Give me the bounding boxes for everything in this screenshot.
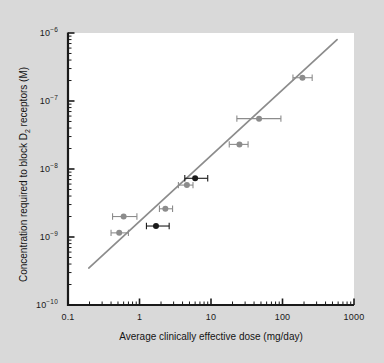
y-tick-label: 10−9 bbox=[0, 232, 58, 242]
x-axis-title: Average clinically effective dose (mg/da… bbox=[68, 331, 354, 342]
x-tick-label: 0.1 bbox=[61, 312, 74, 322]
x-tick-label: 10 bbox=[206, 312, 216, 322]
y-axis-title-main: Concentration required to block D bbox=[18, 133, 29, 282]
y-tick-label: 10−8 bbox=[0, 164, 58, 174]
x-tick-label: 100 bbox=[275, 312, 291, 322]
y-axis-title: Concentration required to block D2 recep… bbox=[18, 32, 29, 318]
regression-line bbox=[89, 40, 337, 268]
x-tick-label: 1 bbox=[137, 312, 142, 322]
x-tick-label: 1000 bbox=[344, 312, 365, 322]
figure-panel: 0.11101001000 10−1010−910−810−710−6 Aver… bbox=[0, 0, 384, 363]
y-axis-title-tail: receptors (M) bbox=[18, 67, 29, 129]
axis-spines bbox=[68, 33, 354, 306]
y-tick-label: 10−7 bbox=[0, 96, 58, 106]
y-axis-title-subscript: 2 bbox=[24, 129, 31, 133]
y-tick-label: 10−10 bbox=[0, 300, 58, 310]
y-tick-label: 10−6 bbox=[0, 28, 58, 38]
